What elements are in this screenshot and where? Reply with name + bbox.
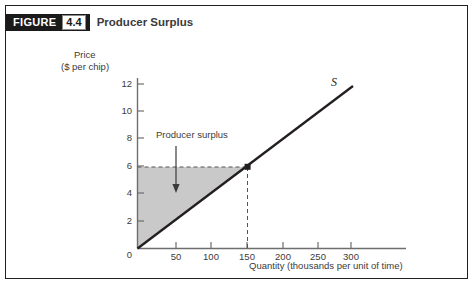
y-tick-label-6: 6 <box>114 161 132 171</box>
supply-curve-label: S <box>331 75 337 90</box>
producer-surplus-annotation: Producer surplus <box>156 129 228 140</box>
chart-svg <box>6 6 469 280</box>
equilibrium-point-marker <box>245 164 251 170</box>
x-tick-label-300: 300 <box>338 252 364 262</box>
y-tick-label-12: 12 <box>114 79 132 89</box>
x-tick-label-250: 250 <box>305 252 331 262</box>
y-axis-title-line1: Price <box>74 49 96 60</box>
figure-frame: FIGURE 4.4 Producer Surplus <box>5 5 468 279</box>
origin-label: 0 <box>114 250 132 260</box>
x-tick-label-200: 200 <box>270 252 296 262</box>
x-tick-label-50: 50 <box>163 252 189 262</box>
x-axis-ticks <box>176 242 351 249</box>
y-tick-label-2: 2 <box>114 216 132 226</box>
y-axis-title-line2: ($ per chip) <box>61 61 109 72</box>
y-tick-label-8: 8 <box>114 133 132 143</box>
y-tick-label-4: 4 <box>114 188 132 198</box>
y-tick-label-10: 10 <box>114 106 132 116</box>
x-tick-label-150: 150 <box>234 252 260 262</box>
chart-plot-area: Price ($ per chip) Quantity (thousands p… <box>6 6 469 280</box>
x-tick-label-100: 100 <box>198 252 224 262</box>
